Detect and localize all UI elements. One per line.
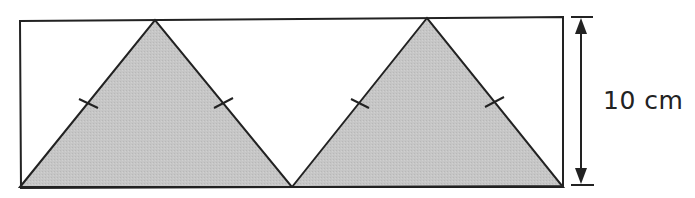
arrowhead-down-icon [575, 168, 587, 184]
left-triangle [20, 20, 292, 187]
height-dimension-arrow [571, 17, 594, 185]
height-label: 10 cm [603, 86, 683, 115]
arrowhead-up-icon [575, 18, 587, 34]
right-triangle [292, 18, 563, 187]
geometry-diagram [0, 0, 695, 198]
